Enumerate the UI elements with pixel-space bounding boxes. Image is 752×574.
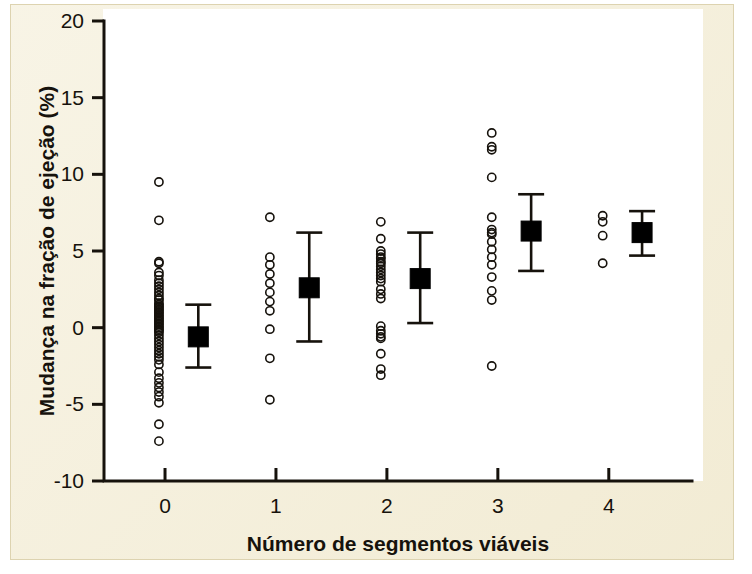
mean-square-marker — [410, 269, 430, 289]
x-tick-label: 1 — [270, 494, 282, 517]
x-axis-title: Número de segmentos viáveis — [247, 532, 549, 555]
mean-square-marker — [632, 223, 652, 243]
x-tick-label: 3 — [492, 494, 504, 517]
y-tick-label: 20 — [61, 9, 84, 32]
y-tick-label: 10 — [61, 162, 84, 185]
plot-background — [103, 9, 703, 481]
y-tick-label: -10 — [54, 469, 84, 492]
x-tick-label: 2 — [381, 494, 393, 517]
y-tick-labels: -10-505101520 — [54, 9, 84, 492]
x-tick-label: 4 — [603, 494, 615, 517]
mean-square-marker — [299, 278, 319, 298]
y-tick-label: 0 — [72, 316, 84, 339]
x-tick-label: 0 — [159, 494, 171, 517]
y-tick-label: 5 — [72, 239, 84, 262]
mean-square-marker — [521, 221, 541, 241]
y-tick-label: -5 — [65, 392, 84, 415]
y-axis-title: Mudança na fração de ejeção (%) — [35, 86, 58, 416]
mean-square-marker — [188, 327, 208, 347]
y-tick-label: 15 — [61, 86, 84, 109]
scatter-plot: -10-505101520 01234 Mudança na fração de… — [11, 5, 735, 561]
figure-panel: -10-505101520 01234 Mudança na fração de… — [10, 4, 734, 560]
x-tick-labels: 01234 — [159, 494, 615, 517]
